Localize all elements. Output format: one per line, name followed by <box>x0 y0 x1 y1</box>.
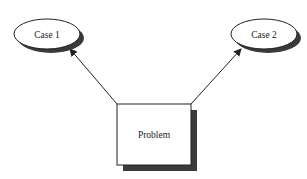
node-problem[interactable]: Problem <box>117 104 197 171</box>
case-2-label: Case 2 <box>251 30 277 40</box>
node-case-2[interactable]: Case 2 <box>231 19 301 53</box>
case-1-label: Case 1 <box>34 30 60 40</box>
arrow-problem-to-case2 <box>191 49 241 104</box>
node-case-1[interactable]: Case 1 <box>14 19 84 53</box>
problem-label: Problem <box>138 130 171 140</box>
arrow-problem-to-case1 <box>70 49 117 104</box>
diagram-canvas: Case 1 Case 2 Problem <box>0 0 307 179</box>
